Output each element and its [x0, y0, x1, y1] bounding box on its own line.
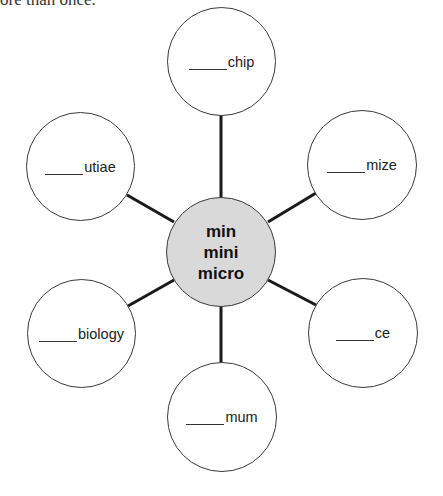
- node-upper-right: mize: [307, 110, 417, 220]
- answer-blank[interactable]: [45, 160, 83, 175]
- node-upper-left: utiae: [26, 112, 135, 221]
- node-top: chip: [167, 7, 276, 116]
- answer-blank[interactable]: [186, 410, 224, 425]
- hub-word-micro: micro: [198, 263, 244, 284]
- node-suffix: mize: [366, 157, 397, 173]
- answer-blank[interactable]: [189, 55, 227, 70]
- node-suffix: ce: [375, 325, 390, 341]
- node-suffix: mum: [225, 409, 257, 425]
- answer-blank[interactable]: [39, 327, 77, 342]
- answer-blank[interactable]: [336, 326, 374, 341]
- spoke-lower-left: [128, 280, 174, 306]
- answer-blank[interactable]: [327, 158, 365, 173]
- node-suffix: biology: [78, 326, 124, 342]
- hub-word-mini: mini: [204, 242, 239, 263]
- node-bottom: mum: [167, 362, 277, 472]
- spoke-upper-left: [127, 195, 174, 222]
- node-lower-left: biology: [27, 279, 136, 388]
- node-lower-right: ce: [308, 278, 418, 388]
- hub-circle: min mini micro: [166, 197, 276, 307]
- spoke-upper-right: [268, 193, 316, 222]
- hub-word-min: min: [206, 221, 236, 242]
- spoke-lower-right: [268, 280, 316, 305]
- node-suffix: utiae: [84, 159, 115, 175]
- node-suffix: chip: [228, 54, 255, 70]
